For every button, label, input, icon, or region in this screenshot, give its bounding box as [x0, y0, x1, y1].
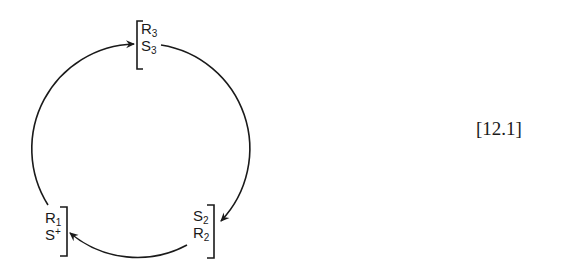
species-s-plus: S+ [45, 226, 61, 243]
species-r1: R1 [45, 209, 61, 226]
species-s3: S3 [141, 37, 157, 54]
species-r2: R2 [193, 224, 209, 241]
arc-right-to-left [70, 233, 187, 257]
node-bottom-left: R1 S+ [45, 209, 61, 243]
node-top: R3 S3 [141, 20, 157, 54]
arc-top-to-right [161, 45, 250, 221]
equation-number: [12.1] [476, 118, 522, 140]
species-r3: R3 [141, 20, 157, 37]
species-s2: S2 [193, 207, 209, 224]
arc-left-to-top [32, 44, 134, 205]
node-bottom-right: S2 R2 [193, 207, 209, 241]
